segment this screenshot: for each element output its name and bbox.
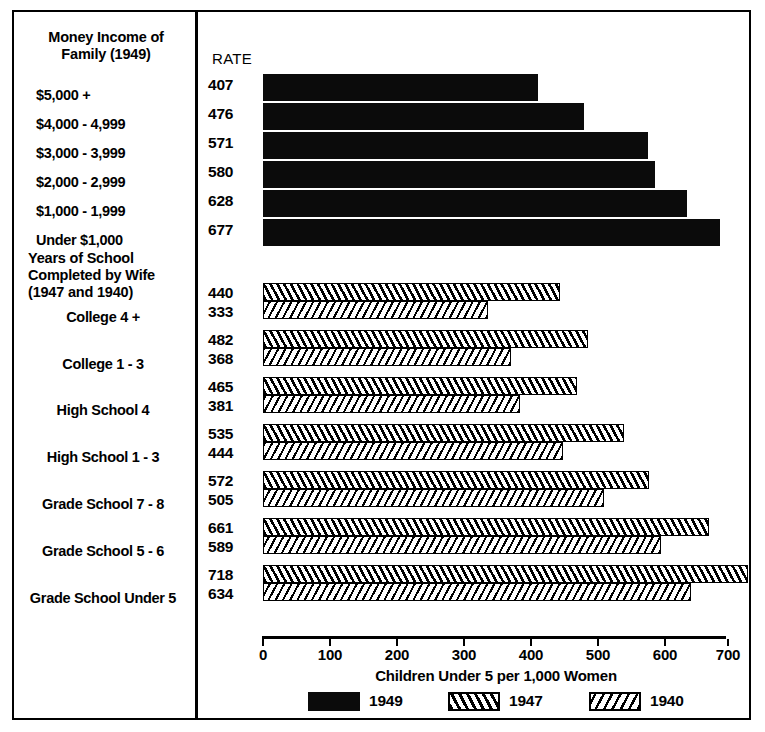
x-axis-tick-100 [329, 639, 331, 646]
x-axis-title: Children Under 5 per 1,000 Women [262, 667, 730, 684]
legend-swatch-1949-icon [308, 692, 360, 711]
bar-edu-1940-1 [263, 348, 511, 366]
rate-value-edu-1940-1: 368 [208, 350, 254, 368]
rate-value-income-4: 628 [208, 192, 254, 210]
chart-figure: Money Income of Family (1949) $5,000 + $… [12, 10, 751, 720]
rate-value-edu-1940-0: 333 [208, 303, 254, 321]
bar-edu-1940-6 [263, 583, 691, 601]
income-category-label-4: $1,000 - 1,999 [36, 203, 125, 219]
x-axis-tick-300 [463, 639, 465, 646]
bar-income-1949-4 [263, 190, 687, 217]
bar-edu-1940-2 [263, 395, 520, 413]
bar-edu-1940-5 [263, 536, 661, 554]
income-section-header-line1: Money Income of [20, 29, 192, 46]
education-category-label-5: Grade School 5 - 6 [14, 543, 192, 559]
bar-edu-1947-5 [263, 518, 709, 536]
x-axis-tick-label-2: 200 [370, 646, 424, 663]
legend-item-1949: 1949 [308, 690, 403, 712]
x-axis-tick-label-7: 700 [701, 646, 755, 663]
bar-income-1949-5 [263, 219, 720, 246]
bar-edu-1940-3 [263, 442, 563, 460]
x-axis-tick-600 [664, 639, 666, 646]
legend-label-1940: 1940 [650, 692, 684, 710]
bar-edu-1947-3 [263, 424, 624, 442]
x-axis-tick-400 [530, 639, 532, 646]
x-axis-tick-label-3: 300 [437, 646, 491, 663]
income-category-label-3: $2,000 - 2,999 [36, 174, 125, 190]
bar-income-1949-3 [263, 161, 655, 188]
education-category-label-4: Grade School 7 - 8 [14, 496, 192, 512]
rate-value-income-1: 476 [208, 105, 254, 123]
bar-income-1949-1 [263, 103, 584, 130]
rate-value-edu-1940-4: 505 [208, 491, 254, 509]
legend-label-1947: 1947 [509, 692, 543, 710]
rate-value-edu-1940-3: 444 [208, 444, 254, 462]
rate-value-edu-1947-0: 440 [208, 284, 254, 302]
rate-value-edu-1940-6: 634 [208, 585, 254, 603]
rate-value-income-3: 580 [208, 163, 254, 181]
income-category-label-2: $3,000 - 3,999 [36, 145, 125, 161]
education-section-header-line3: (1947 and 1940) [28, 284, 192, 301]
legend-label-1949: 1949 [369, 692, 403, 710]
rate-value-edu-1947-2: 465 [208, 378, 254, 396]
bar-edu-1947-6 [263, 565, 748, 583]
income-category-label-0: $5,000 + [36, 87, 90, 103]
rate-value-income-0: 407 [208, 76, 254, 94]
x-axis-tick-0 [262, 639, 264, 646]
rate-value-edu-1947-1: 482 [208, 331, 254, 349]
rate-value-edu-1947-5: 661 [208, 519, 254, 537]
bar-income-1949-2 [263, 132, 648, 159]
legend-item-1940: 1940 [589, 690, 684, 712]
rate-value-edu-1947-6: 718 [208, 566, 254, 584]
chart-legend: 1949 1947 1940 [308, 690, 728, 712]
plot-area: RATE 407 476 571 580 628 677 440 333 482… [198, 12, 749, 718]
bar-edu-1940-0 [263, 301, 488, 319]
education-section-header: Years of School Completed by Wife (1947 … [20, 250, 192, 301]
x-axis-tick-200 [396, 639, 398, 646]
legend-swatch-1947-icon [448, 692, 500, 711]
bar-edu-1947-0 [263, 283, 560, 301]
rate-value-edu-1940-2: 381 [208, 397, 254, 415]
x-axis-tick-label-0: 0 [236, 646, 290, 663]
education-category-label-2: High School 4 [14, 402, 192, 418]
income-section-header: Money Income of Family (1949) [20, 29, 192, 63]
rate-column-title: RATE [212, 50, 252, 67]
x-axis-tick-label-4: 400 [504, 646, 558, 663]
income-category-label-5: Under $1,000 [36, 232, 123, 248]
legend-swatch-1940-icon [589, 692, 641, 711]
education-section-header-line1: Years of School [28, 250, 192, 267]
x-axis-tick-label-1: 100 [303, 646, 357, 663]
education-section-header-line2: Completed by Wife [28, 267, 192, 284]
rate-value-edu-1947-4: 572 [208, 472, 254, 490]
rate-value-income-2: 571 [208, 134, 254, 152]
education-category-label-1: College 1 - 3 [14, 356, 192, 372]
x-axis-tick-label-5: 500 [571, 646, 625, 663]
x-axis-tick-700 [727, 639, 729, 646]
rate-value-edu-1947-3: 535 [208, 425, 254, 443]
rate-value-income-5: 677 [208, 221, 254, 239]
income-category-label-1: $4,000 - 4,999 [36, 116, 125, 132]
income-section-header-line2: Family (1949) [20, 46, 192, 63]
education-category-label-3: High School 1 - 3 [14, 449, 192, 465]
rate-value-edu-1940-5: 589 [208, 538, 254, 556]
bar-income-1949-0 [263, 74, 538, 101]
bar-edu-1947-2 [263, 377, 577, 395]
education-category-label-0: College 4 + [14, 309, 192, 325]
bar-edu-1940-4 [263, 489, 604, 507]
x-axis-tick-500 [597, 639, 599, 646]
bar-edu-1947-4 [263, 471, 649, 489]
category-label-column: Money Income of Family (1949) $5,000 + $… [14, 12, 198, 718]
legend-item-1947: 1947 [448, 690, 543, 712]
education-category-label-6: Grade School Under 5 [14, 590, 192, 606]
x-axis-line [262, 636, 726, 639]
x-axis-tick-label-6: 600 [638, 646, 692, 663]
bar-edu-1947-1 [263, 330, 588, 348]
